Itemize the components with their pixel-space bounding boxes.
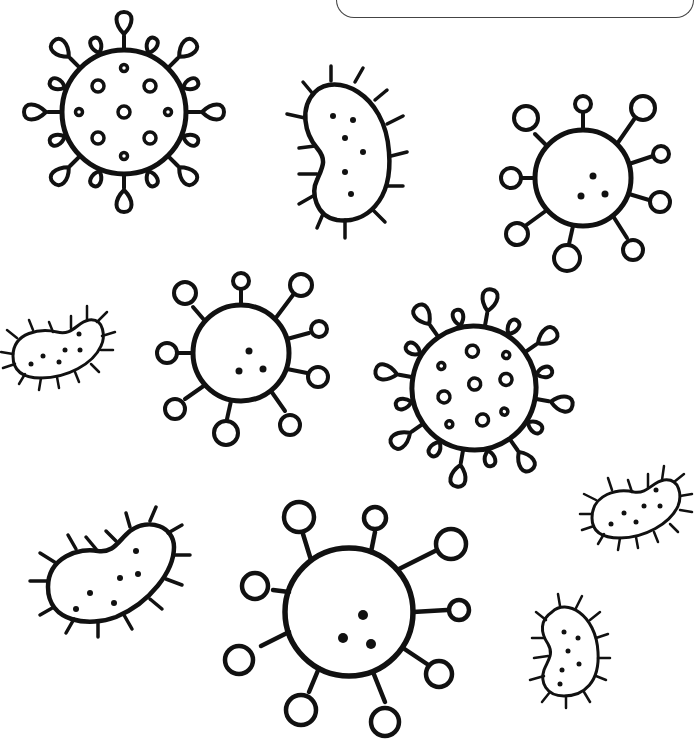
bacterium-icon <box>1 306 115 390</box>
bacterium-icon <box>30 507 190 637</box>
virus-icon <box>225 502 469 736</box>
virus-icon <box>157 273 328 445</box>
bacterium-icon <box>530 594 610 708</box>
virus-icon <box>501 96 670 271</box>
bacterium-icon <box>287 66 407 238</box>
coloring-canvas <box>0 0 696 742</box>
virus-icon <box>358 272 590 504</box>
bacterium-icon <box>580 466 692 550</box>
virus-icon <box>24 12 224 212</box>
